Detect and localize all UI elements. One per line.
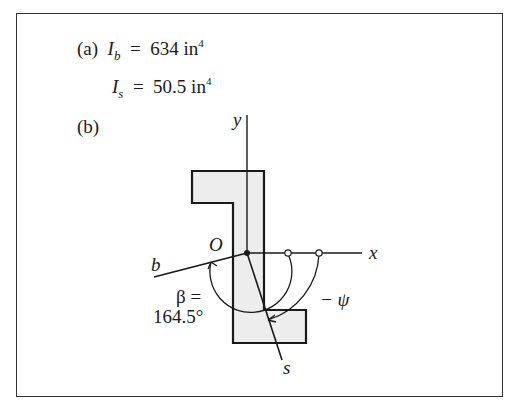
s-axis-label: s: [283, 358, 290, 377]
y-axis-label: y: [233, 110, 241, 129]
x-axis-label: x: [369, 243, 377, 262]
psi-label: − ψ: [320, 290, 349, 309]
origin-label: O: [209, 235, 223, 254]
origin-point-icon: [244, 250, 250, 256]
beta-label-line1: β =: [176, 287, 201, 306]
b-axis-label: b: [151, 255, 161, 274]
beta-arc-start-icon: [285, 250, 291, 256]
z-section-diagram: [0, 0, 512, 415]
beta-label-line2: 164.5°: [153, 307, 203, 326]
psi-arc-start-icon: [316, 250, 322, 256]
